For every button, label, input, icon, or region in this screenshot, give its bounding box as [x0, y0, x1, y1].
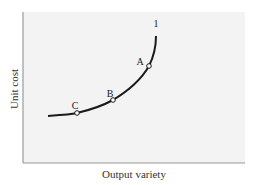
curve-1-label: 1 — [154, 18, 159, 29]
chart: C B A 1 Unit cost Output variety — [0, 0, 258, 185]
plot-canvas — [0, 0, 258, 185]
point-c-label: C — [72, 100, 79, 111]
y-axis-label: Unit cost — [8, 69, 20, 109]
x-axis-label: Output variety — [102, 168, 166, 180]
point-c-marker — [75, 111, 80, 116]
point-b-label: B — [107, 88, 114, 99]
point-a-marker — [147, 64, 152, 69]
curve-1 — [48, 36, 156, 116]
point-a-label: A — [136, 56, 143, 67]
